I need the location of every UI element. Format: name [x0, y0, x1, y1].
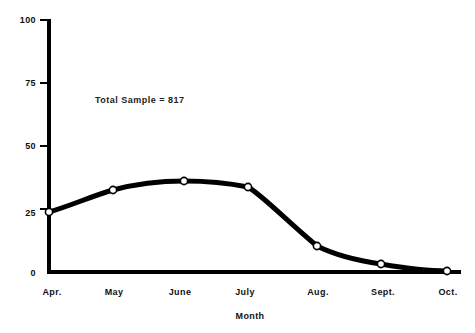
x-tick-label-june: June: [169, 287, 192, 297]
y-tick-label-100: 100: [20, 15, 36, 25]
total-sample-annotation: Total Sample = 817: [95, 95, 185, 105]
x-tick-label-may: May: [105, 287, 124, 297]
x-tick-label-apr: Apr.: [42, 287, 61, 297]
chart-background: [0, 0, 475, 333]
x-axis-title: Month: [236, 311, 265, 321]
data-point-july: [244, 183, 251, 190]
data-point-may: [109, 186, 116, 193]
y-tick-label-25: 25: [25, 208, 36, 218]
x-tick-label-oct: Oct.: [438, 287, 457, 297]
x-tick-label-july: July: [235, 287, 255, 297]
x-tick-label-sept: Sept.: [371, 287, 395, 297]
data-point-aug: [313, 242, 320, 249]
data-point-june: [180, 177, 187, 184]
data-point-oct: [443, 267, 450, 274]
y-tick-label-75: 75: [25, 78, 36, 88]
y-tick-label-0: 0: [31, 268, 36, 278]
data-point-sept: [377, 260, 384, 267]
x-tick-label-aug: Aug.: [307, 287, 329, 297]
chart-container: 100 75 50 25 0 Apr. May June July Aug. S…: [0, 0, 475, 333]
line-chart-svg: 100 75 50 25 0 Apr. May June July Aug. S…: [0, 0, 475, 333]
data-point-apr: [45, 208, 52, 215]
y-tick-label-50: 50: [25, 141, 36, 151]
